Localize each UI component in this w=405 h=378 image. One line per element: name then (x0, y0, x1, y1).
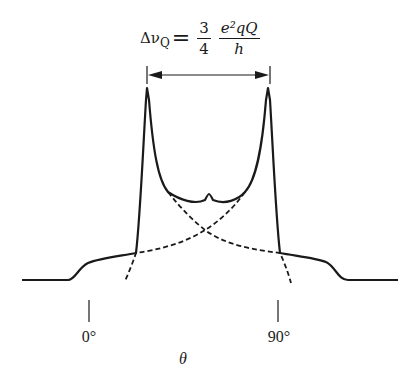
axis-label-theta: θ (179, 350, 187, 368)
fraction-coupling-constant: e²qQ h (219, 19, 260, 58)
fraction2-numerator: e²qQ (219, 19, 260, 37)
tick-label-0deg: 0° (82, 328, 96, 346)
equals-sign: = (172, 27, 190, 49)
dashed-component-right (125, 192, 245, 281)
subscript-q: Q (160, 36, 170, 50)
fraction2-bar (219, 38, 260, 39)
fraction1-numerator: 3 (197, 19, 211, 37)
fraction2-denominator: h (232, 40, 246, 58)
solid-total-spectrum (22, 88, 398, 280)
splitting-arrow (147, 66, 270, 84)
fraction1-denominator: 4 (197, 40, 211, 58)
dashed-component-left (168, 192, 291, 283)
tick-label-90deg: 90° (268, 328, 290, 346)
arrow-head-left (148, 71, 162, 79)
delta-nu-symbol: Δν (140, 29, 160, 47)
fraction-three-quarters: 3 4 (197, 19, 211, 58)
formula-lhs: ΔνQ (140, 29, 170, 47)
fraction1-bar (197, 38, 211, 39)
arrow-head-right (255, 71, 269, 79)
splitting-formula: ΔνQ = 3 4 e²qQ h (140, 10, 264, 66)
